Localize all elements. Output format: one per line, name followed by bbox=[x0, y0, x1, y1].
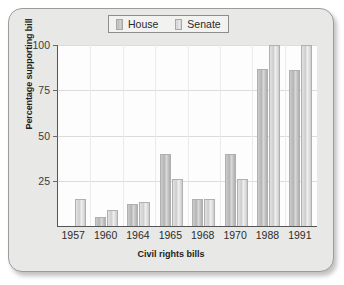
bar-senate-1957 bbox=[75, 199, 86, 226]
bar-senate-1960 bbox=[107, 210, 118, 226]
y-tick-label-25: 25 bbox=[38, 175, 50, 187]
bar-senate-1965 bbox=[172, 179, 183, 226]
x-axis-tick-labels: 19571960196419651968197019881991 bbox=[57, 229, 316, 241]
bar-house-1964 bbox=[127, 204, 138, 226]
bar-senate-1970 bbox=[237, 179, 248, 226]
bar-group-1988 bbox=[252, 45, 284, 226]
bar-house-1970 bbox=[225, 154, 236, 226]
house-swatch-icon bbox=[116, 19, 123, 30]
y-tick-label-100: 100 bbox=[32, 39, 50, 51]
bar-group-1960 bbox=[90, 45, 122, 226]
x-tick-label-1970: 1970 bbox=[219, 229, 251, 241]
y-tick-label-50: 50 bbox=[38, 130, 50, 142]
bar-senate-1968 bbox=[204, 199, 215, 226]
bar-house-1968 bbox=[192, 199, 203, 226]
bar-senate-1964 bbox=[139, 202, 150, 226]
legend-label-house: House bbox=[128, 19, 158, 30]
bar-house-1960 bbox=[95, 217, 106, 226]
bar-group-1965 bbox=[155, 45, 187, 226]
bar-group-1991 bbox=[285, 45, 317, 226]
x-tick-label-1964: 1964 bbox=[122, 229, 154, 241]
bar-house-1988 bbox=[257, 69, 268, 226]
x-tick-label-1968: 1968 bbox=[187, 229, 219, 241]
bar-senate-1988 bbox=[269, 45, 280, 226]
bar-house-1965 bbox=[160, 154, 171, 226]
x-tick-label-1991: 1991 bbox=[284, 229, 316, 241]
x-axis-title: Civil rights bills bbox=[9, 249, 333, 259]
chart-figure-frame: House Senate Percentage supporting bill … bbox=[8, 8, 334, 272]
legend-entry-senate: Senate bbox=[175, 19, 220, 30]
senate-swatch-icon bbox=[175, 19, 182, 30]
chart-legend: House Senate bbox=[108, 15, 229, 33]
y-axis-title: Percentage supporting bill bbox=[24, 8, 34, 140]
x-tick-label-1960: 1960 bbox=[89, 229, 121, 241]
bar-group-1968 bbox=[188, 45, 220, 226]
bar-group-1957 bbox=[58, 45, 90, 226]
plot-area: 255075100 bbox=[57, 45, 317, 227]
x-tick-label-1988: 1988 bbox=[251, 229, 283, 241]
bar-house-1991 bbox=[289, 70, 300, 226]
y-tick-label-75: 75 bbox=[38, 84, 50, 96]
bar-series-container bbox=[58, 45, 317, 226]
legend-label-senate: Senate bbox=[187, 19, 220, 30]
x-tick-label-1957: 1957 bbox=[57, 229, 89, 241]
bar-senate-1991 bbox=[301, 45, 312, 226]
bar-group-1970 bbox=[220, 45, 252, 226]
legend-entry-house: House bbox=[116, 19, 158, 30]
bar-group-1964 bbox=[123, 45, 155, 226]
x-tick-label-1965: 1965 bbox=[154, 229, 186, 241]
